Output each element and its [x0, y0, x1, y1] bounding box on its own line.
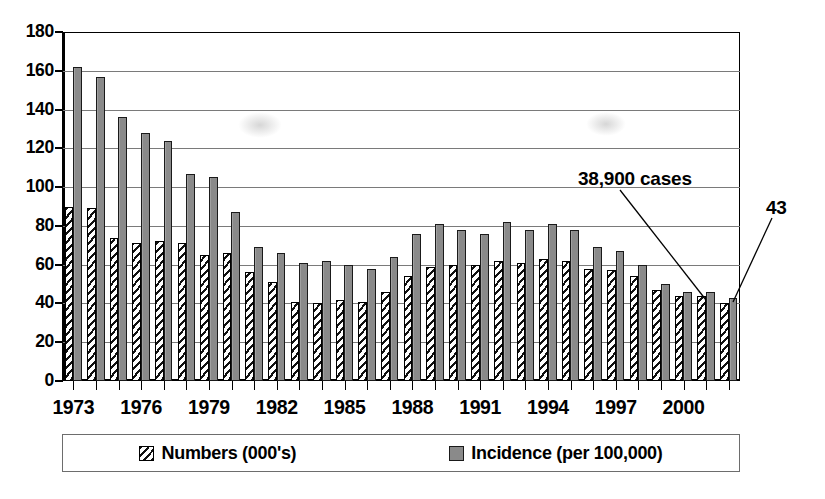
scan-artifact — [238, 112, 282, 138]
x-axis-tick-mark — [367, 381, 368, 390]
legend: Numbers (000's) Incidence (per 100,000) — [62, 434, 740, 472]
bar-numbers-1998 — [630, 276, 639, 381]
x-axis-tick-mark — [186, 381, 187, 390]
bar-group — [62, 32, 85, 381]
bar-group — [356, 32, 379, 381]
x-axis-tick-mark — [412, 381, 413, 390]
bar-incidence-1978 — [186, 174, 195, 381]
bar-group — [491, 32, 514, 381]
bar-numbers-1984 — [313, 303, 322, 381]
bar-numbers-1996 — [584, 269, 593, 381]
bar-numbers-1978 — [178, 243, 187, 381]
bar-group — [220, 32, 243, 381]
bar-group — [288, 32, 311, 381]
bar-group — [672, 32, 695, 381]
bar-numbers-1975 — [110, 238, 119, 381]
bar-numbers-1994 — [539, 259, 548, 381]
legend-item-incidence: Incidence (per 100,000) — [449, 443, 662, 464]
bar-group — [537, 32, 560, 381]
bar-numbers-1997 — [607, 270, 616, 381]
x-axis-tick-label: 1973 — [52, 396, 94, 419]
bar-incidence-1990 — [457, 230, 466, 381]
bar-numbers-1991 — [471, 265, 480, 381]
bars-layer — [62, 32, 740, 381]
y-axis-tick-label: 60 — [8, 256, 54, 274]
x-axis-tick-mark — [119, 381, 120, 390]
bar-group — [107, 32, 130, 381]
bar-group — [130, 32, 153, 381]
x-axis-tick-mark — [209, 381, 210, 390]
bar-group — [650, 32, 673, 381]
bar-incidence-1994 — [548, 224, 557, 381]
bar-incidence-1997 — [616, 251, 625, 381]
bar-group — [469, 32, 492, 381]
x-axis-tick-mark — [616, 381, 617, 390]
bar-group — [559, 32, 582, 381]
bar-numbers-1981 — [245, 272, 254, 381]
bar-group — [424, 32, 447, 381]
bar-incidence-1982 — [277, 253, 286, 381]
bar-incidence-1975 — [118, 117, 127, 381]
bar-incidence-1985 — [344, 265, 353, 381]
annotation-cases-label: 38,900 cases — [578, 168, 692, 190]
hatched-swatch-icon — [139, 446, 154, 461]
x-axis-tick-mark — [345, 381, 346, 390]
bar-incidence-1995 — [570, 230, 579, 381]
y-axis-tick-label: 100 — [8, 178, 54, 196]
x-axis-tick-mark — [593, 381, 594, 390]
bar-numbers-1974 — [87, 208, 96, 381]
y-axis-tick-label: 160 — [8, 62, 54, 80]
y-axis-tick-label: 140 — [8, 101, 54, 119]
x-axis-tick-mark — [706, 381, 707, 390]
y-axis-tick-label: 180 — [8, 23, 54, 41]
bar-incidence-1973 — [73, 67, 82, 381]
bar-numbers-1995 — [562, 261, 571, 381]
bar-group — [717, 32, 740, 381]
y-axis-tick-label: 0 — [8, 372, 54, 390]
x-axis-tick-mark — [525, 381, 526, 390]
bar-incidence-1984 — [322, 261, 331, 381]
bar-group — [311, 32, 334, 381]
bar-numbers-2002 — [720, 303, 729, 381]
x-axis-tick-mark — [141, 381, 142, 390]
bar-group — [378, 32, 401, 381]
bar-group — [198, 32, 221, 381]
bar-numbers-1980 — [223, 253, 232, 381]
bar-numbers-1976 — [132, 243, 141, 381]
bar-numbers-2000 — [675, 296, 684, 381]
bar-incidence-1988 — [412, 234, 421, 381]
bar-group — [175, 32, 198, 381]
bar-group — [265, 32, 288, 381]
x-axis-tick-label: 1997 — [595, 396, 637, 419]
gray-swatch-icon — [449, 446, 464, 461]
bar-incidence-2002 — [729, 298, 738, 381]
bar-incidence-1989 — [435, 224, 444, 381]
y-axis-tick-label: 80 — [8, 217, 54, 235]
bar-group — [401, 32, 424, 381]
bar-incidence-1974 — [96, 77, 105, 381]
x-axis-tick-mark — [299, 381, 300, 390]
bar-group — [604, 32, 627, 381]
x-axis-tick-mark — [638, 381, 639, 390]
x-axis-tick-mark — [322, 381, 323, 390]
bar-group — [514, 32, 537, 381]
bar-numbers-1999 — [652, 290, 661, 381]
bar-incidence-1992 — [503, 222, 512, 381]
x-axis-tick-mark — [390, 381, 391, 390]
bar-incidence-1993 — [525, 230, 534, 381]
bar-incidence-1979 — [209, 177, 218, 381]
bar-numbers-1992 — [494, 261, 503, 381]
bar-numbers-1987 — [381, 292, 390, 381]
bar-numbers-1986 — [358, 302, 367, 381]
x-axis-tick-mark — [661, 381, 662, 390]
x-axis-tick-label: 1985 — [324, 396, 366, 419]
bar-numbers-1977 — [155, 241, 164, 381]
bar-numbers-1979 — [200, 255, 209, 381]
bar-group — [243, 32, 266, 381]
x-axis-tick-mark — [232, 381, 233, 390]
bar-numbers-1983 — [291, 302, 300, 381]
bar-group — [695, 32, 718, 381]
bar-numbers-1989 — [426, 267, 435, 381]
y-axis-tick-label: 20 — [8, 333, 54, 351]
bar-numbers-1985 — [336, 300, 345, 381]
